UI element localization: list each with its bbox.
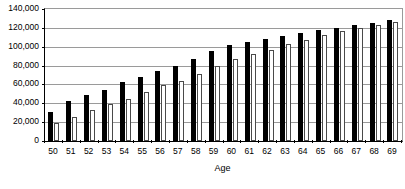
bar-series-b <box>215 66 220 141</box>
bar-series-b <box>144 92 149 141</box>
y-axis-tick-label: 120,000 <box>8 23 39 32</box>
x-axis-tick <box>258 140 259 143</box>
x-axis-tick-label: 64 <box>294 145 312 159</box>
bar-group <box>313 9 331 141</box>
y-axis-tick-label: 80,000 <box>13 60 39 69</box>
bar-group <box>188 9 206 141</box>
x-axis-tick-label: 68 <box>365 145 383 159</box>
bar-series-b <box>233 59 238 142</box>
bar-series-a <box>209 51 214 141</box>
x-axis-tick-label: 50 <box>44 145 62 159</box>
bar-series-a <box>298 33 303 141</box>
bar-series-a <box>227 45 232 141</box>
bar-group <box>241 9 259 141</box>
x-axis-tick-label: 61 <box>240 145 258 159</box>
bar-group <box>81 9 99 141</box>
x-axis-tick <box>223 140 224 143</box>
x-axis-tick-label: 69 <box>383 145 401 159</box>
bar-series-b <box>393 22 398 141</box>
bar-series-a <box>352 25 357 141</box>
plot-area <box>44 8 403 142</box>
bar-series-a <box>370 23 375 141</box>
bar-group <box>152 9 170 141</box>
y-axis-labels: 140,000120,000100,00080,00060,00040,0002… <box>0 0 42 148</box>
x-axis-ticks <box>44 140 401 144</box>
bar-series-a <box>102 90 107 141</box>
x-axis-tick <box>383 140 384 143</box>
bar-series-a <box>84 95 89 141</box>
bar-group <box>63 9 81 141</box>
bar-group <box>223 9 241 141</box>
y-axis-tick-label: 0 <box>34 136 39 145</box>
bar-series-b <box>90 110 95 141</box>
y-axis-tick-label: 20,000 <box>13 117 39 126</box>
bar-series-b <box>358 28 363 141</box>
bar-series-b <box>251 54 256 141</box>
bar-series-b <box>54 123 59 141</box>
bars-layer <box>45 9 402 141</box>
bar-series-b <box>340 31 345 141</box>
bar-chart: 140,000120,000100,00080,00060,00040,0002… <box>0 0 405 189</box>
x-axis-tick <box>330 140 331 143</box>
y-axis-tick-label: 40,000 <box>13 98 39 107</box>
bar-group <box>295 9 313 141</box>
bar-series-b <box>376 25 381 141</box>
x-axis-tick-label: 53 <box>98 145 116 159</box>
bar-group <box>384 9 402 141</box>
x-axis-tick <box>80 140 81 143</box>
bar-series-b <box>108 104 113 141</box>
x-axis-tick-label: 54 <box>115 145 133 159</box>
bar-group <box>259 9 277 141</box>
bar-group <box>99 9 117 141</box>
x-axis-tick <box>312 140 313 143</box>
x-axis-tick <box>62 140 63 143</box>
bar-series-b <box>269 50 274 141</box>
bar-series-b <box>179 81 184 141</box>
bar-series-a <box>173 66 178 141</box>
x-axis-tick <box>115 140 116 143</box>
bar-group <box>348 9 366 141</box>
x-axis-tick-label: 59 <box>205 145 223 159</box>
x-axis-tick <box>347 140 348 143</box>
bar-series-a <box>120 82 125 141</box>
x-axis-tick-label: 67 <box>347 145 365 159</box>
x-axis-tick-label: 55 <box>133 145 151 159</box>
x-axis-tick-label: 66 <box>330 145 348 159</box>
y-axis-tick-label: 140,000 <box>8 4 39 13</box>
bar-group <box>331 9 349 141</box>
x-axis-tick <box>205 140 206 143</box>
x-axis-tick <box>44 140 45 143</box>
bar-series-a <box>245 42 250 141</box>
x-axis-tick-label: 62 <box>258 145 276 159</box>
x-axis-tick-label: 63 <box>276 145 294 159</box>
bar-group <box>116 9 134 141</box>
bar-series-a <box>387 20 392 141</box>
x-axis-tick <box>187 140 188 143</box>
x-axis-tick <box>365 140 366 143</box>
bar-series-a <box>191 59 196 142</box>
x-axis-tick <box>133 140 134 143</box>
x-axis-tick-label: 65 <box>312 145 330 159</box>
bar-series-a <box>316 30 321 141</box>
x-axis-tick <box>294 140 295 143</box>
x-axis-tick-label: 57 <box>169 145 187 159</box>
bar-series-b <box>197 74 202 141</box>
x-axis-tick <box>240 140 241 143</box>
bar-series-b <box>72 117 77 142</box>
bar-series-b <box>322 35 327 141</box>
bar-series-b <box>286 44 291 141</box>
x-axis-tick <box>151 140 152 143</box>
bar-group <box>277 9 295 141</box>
x-axis-tick-label: 52 <box>80 145 98 159</box>
bar-series-b <box>161 85 166 141</box>
bar-series-a <box>66 101 71 141</box>
bar-series-b <box>304 40 309 141</box>
x-axis-tick-label: 56 <box>151 145 169 159</box>
bar-group <box>206 9 224 141</box>
x-axis-tick-label: 60 <box>222 145 240 159</box>
bar-series-a <box>155 71 160 141</box>
bar-series-a <box>263 39 268 141</box>
x-axis-tick <box>169 140 170 143</box>
bar-series-a <box>280 36 285 141</box>
bar-group <box>170 9 188 141</box>
